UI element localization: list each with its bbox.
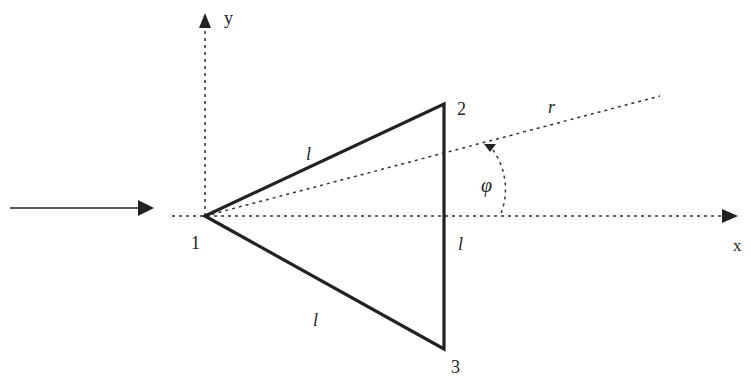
ray-r-label: r — [548, 97, 556, 117]
side-23-label: l — [458, 234, 463, 254]
x-axis-label: x — [733, 236, 742, 255]
side-13-label: l — [313, 310, 318, 330]
triangle — [205, 104, 444, 349]
side-12-label: l — [306, 144, 311, 164]
y-axis — [199, 13, 211, 216]
angle-phi-label: φ — [481, 174, 492, 197]
x-axis — [172, 209, 738, 223]
y-axis-label: y — [224, 8, 233, 28]
incoming-arrow — [10, 200, 154, 216]
triangle-diagram: y x 1 2 3 l l l r φ — [0, 0, 751, 386]
ray-r — [205, 96, 660, 216]
vertex-1-label: 1 — [191, 233, 200, 253]
vertex-2-label: 2 — [457, 99, 466, 119]
vertex-3-label: 3 — [451, 357, 460, 377]
